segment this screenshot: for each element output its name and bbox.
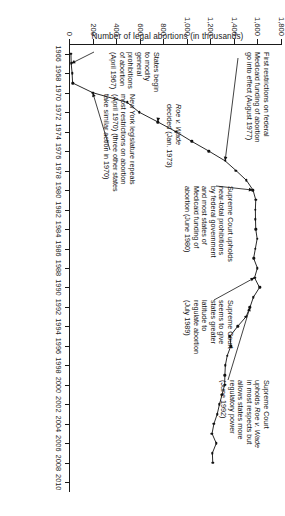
x-tick-label: 1978: [54, 162, 63, 178]
x-tick-label: 2008: [54, 455, 63, 471]
data-point: [256, 267, 259, 270]
data-point: [235, 169, 238, 172]
data-point: [254, 247, 257, 250]
abortion-trend-chart: Number of legal abortions (in thousands)…: [26, 0, 268, 516]
annotation-roe-v-wade-decided: Roe v. Wadedecided (Jan. 1973): [165, 104, 182, 190]
x-tick-label: 1982: [54, 201, 63, 217]
data-point: [254, 218, 257, 221]
data-point: [254, 208, 257, 211]
annotation-new-york-repeals: New York legislature repealsmost restric…: [102, 94, 136, 230]
data-point: [258, 286, 261, 289]
x-tick-label: 1998: [54, 357, 63, 373]
x-tick-label: 1990: [54, 279, 63, 295]
y-tick-label: 400: [112, 0, 121, 36]
annotation-states-begin-to-modify: States beginto modifygeneralprohibitions…: [108, 52, 160, 108]
x-tick-label: 1996: [54, 338, 63, 354]
y-tick-label: 1,200: [206, 0, 215, 36]
data-point: [252, 189, 255, 192]
y-tick-label: 600: [136, 0, 145, 36]
x-tick-label: 1980: [54, 182, 63, 198]
x-tick-label: 1994: [54, 318, 63, 334]
x-tick-label: 2010: [54, 474, 63, 490]
annotation-supreme-court-states-greater-latitude: Supreme Courtseems to givestates greater…: [182, 300, 234, 374]
data-point: [138, 111, 141, 114]
data-point: [224, 160, 227, 163]
data-point: [208, 150, 211, 153]
x-tick-label: 1966: [54, 46, 63, 62]
annotation-first-restrictions-medicaid: First restrictions on federalMedicaid fu…: [244, 52, 268, 164]
data-point: [213, 423, 216, 426]
x-tick-label: 1988: [54, 260, 63, 276]
y-tick-label: 1,000: [183, 0, 192, 36]
data-point: [71, 72, 74, 75]
x-tick-label: 2004: [54, 416, 63, 432]
y-tick-label: 200: [89, 0, 98, 36]
data-point: [245, 179, 248, 182]
y-tick-label: 1,600: [253, 0, 262, 36]
rotated-figure-wrapper: Number of legal abortions (in thousands)…: [26, 0, 268, 516]
data-point: [70, 52, 73, 55]
y-tick-label: 0: [65, 0, 74, 36]
x-tick-label: 1976: [54, 143, 63, 159]
y-tick-label: 800: [159, 0, 168, 36]
data-point: [71, 82, 74, 85]
data-point: [156, 121, 159, 124]
data-point: [236, 325, 239, 328]
x-tick-label: 1986: [54, 240, 63, 256]
x-tick-label: 2000: [54, 377, 63, 393]
x-tick-label: 1968: [54, 65, 63, 81]
data-point: [254, 199, 257, 202]
data-point: [254, 228, 257, 231]
data-point: [253, 276, 256, 279]
annotation-supreme-court-upholds-roe: Supreme Courtupholds Roe v. Wadein most …: [218, 380, 268, 466]
data-point: [211, 452, 214, 455]
x-tick-label: 1992: [54, 299, 63, 315]
data-point: [224, 374, 227, 377]
x-tick-label: 1972: [54, 104, 63, 120]
data-point: [252, 296, 255, 299]
data-point: [252, 257, 255, 260]
data-point: [191, 140, 194, 143]
x-tick-label: 1974: [54, 123, 63, 139]
x-tick-label: 1984: [54, 221, 63, 237]
data-point: [211, 432, 214, 435]
data-point: [91, 91, 94, 94]
y-tick-label: 1,400: [230, 0, 239, 36]
annotation-supreme-court-upholds-medicaid-prohibitions: Supreme Court upholdsnear-total prohibit…: [182, 186, 234, 290]
data-point: [70, 62, 73, 65]
data-point: [249, 306, 252, 309]
data-point: [215, 442, 218, 445]
data-point: [245, 315, 248, 318]
x-tick-label: 1970: [54, 84, 63, 100]
x-tick-label: 2002: [54, 396, 63, 412]
data-point: [256, 237, 259, 240]
x-tick-label: 2006: [54, 435, 63, 451]
data-point: [211, 461, 214, 464]
